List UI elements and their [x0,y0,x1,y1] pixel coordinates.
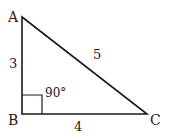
triangle-diagram: A B C 3 4 5 90° [0,0,172,139]
vertex-c-label: C [150,112,161,128]
side-ab-length: 3 [9,56,17,71]
vertex-a-label: A [7,9,19,25]
right-angle-label: 90° [45,86,66,100]
triangle-abc [22,17,147,114]
side-bc-length: 4 [74,119,82,134]
vertex-b-label: B [8,112,18,128]
side-ac-length: 5 [93,47,101,62]
right-angle-marker [22,95,42,114]
